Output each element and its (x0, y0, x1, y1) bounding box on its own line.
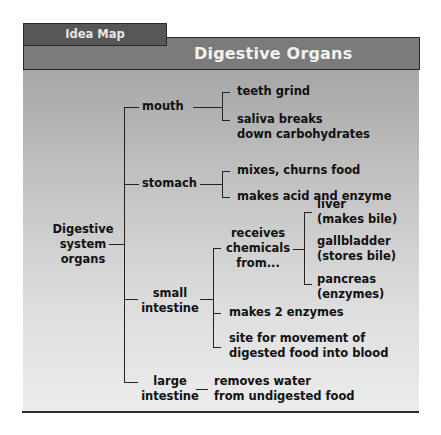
receives-connector (293, 249, 304, 250)
mouth-item-teeth: teeth grind (237, 84, 310, 99)
small-intestine-line-1: small (138, 286, 202, 301)
mouth-bracket-top (222, 92, 230, 93)
stomach-item-mixes: mixes, churns food (237, 163, 360, 178)
mouth-connector (193, 107, 222, 108)
enzymes-branch (213, 313, 221, 314)
stomach-branch (124, 184, 139, 185)
stomach-bracket-bottom (222, 197, 230, 198)
mouth-branch (124, 107, 139, 108)
gallbladder-line-1: gallbladder (317, 234, 396, 249)
node-stomach: stomach (142, 176, 197, 191)
root-line-1: Digestive (46, 222, 120, 237)
source-gallbladder: gallbladder (stores bile) (317, 234, 396, 264)
tab-label: Idea Map (24, 27, 166, 41)
pancreas-line-1: pancreas (317, 272, 384, 287)
sources-bracket-bottom (304, 284, 312, 285)
gallbladder-line-2: (stores bile) (317, 249, 396, 264)
large-intestine-connector (196, 389, 208, 390)
source-liver: liver (makes bile) (317, 197, 397, 227)
liver-line-1: liver (317, 197, 397, 212)
receives-line-3: from... (223, 256, 293, 271)
stomach-bracket (222, 171, 223, 198)
site-line-2: digested food into blood (229, 346, 388, 361)
small-intestine-item-enzymes: makes 2 enzymes (229, 305, 344, 320)
pancreas-line-2: (enzymes) (317, 287, 384, 302)
node-mouth: mouth (142, 99, 184, 114)
site-branch (213, 347, 221, 348)
small-intestine-line-2: intestine (138, 301, 202, 316)
liver-line-2: (makes bile) (317, 212, 397, 227)
receives-line-2: chemicals (223, 241, 293, 256)
large-intestine-branch (124, 382, 138, 383)
bottom-rule (22, 411, 419, 413)
sources-bracket (304, 212, 305, 285)
small-intestine-branch (124, 299, 138, 300)
node-receives-chemicals: receives chemicals from... (223, 226, 293, 271)
saliva-line-1: saliva breaks (237, 112, 370, 127)
idea-map-tab: Idea Map (23, 23, 167, 46)
receives-line-1: receives (223, 226, 293, 241)
large-intestine-line-1: large (138, 374, 202, 389)
page-title: Digestive Organs (194, 44, 352, 63)
mouth-item-saliva: saliva breaks down carbohydrates (237, 112, 370, 142)
stomach-connector (200, 184, 222, 185)
receives-branch (213, 248, 221, 249)
site-line-1: site for movement of (229, 331, 388, 346)
mouth-bracket-bottom (222, 120, 230, 121)
main-trunk-line (124, 107, 125, 383)
large-intestine-item-water: removes water from undigested food (214, 374, 355, 404)
water-line-1: removes water (214, 374, 355, 389)
small-intestine-connector (200, 299, 213, 300)
mouth-bracket (222, 92, 223, 121)
saliva-line-2: down carbohydrates (237, 127, 370, 142)
small-intestine-item-site: site for movement of digested food into … (229, 331, 388, 361)
small-intestine-bracket (213, 248, 214, 348)
water-line-2: from undigested food (214, 389, 355, 404)
root-line-3: organs (46, 252, 120, 267)
sources-bracket-top (304, 212, 312, 213)
root-connector (109, 244, 124, 245)
stomach-bracket-top (222, 171, 230, 172)
node-large-intestine: large intestine (138, 374, 202, 404)
node-small-intestine: small intestine (138, 286, 202, 316)
source-pancreas: pancreas (enzymes) (317, 272, 384, 302)
large-intestine-line-2: intestine (138, 389, 202, 404)
